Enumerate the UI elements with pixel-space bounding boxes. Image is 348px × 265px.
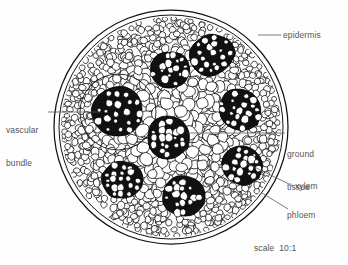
cell bbox=[101, 195, 107, 202]
cell bbox=[243, 60, 249, 66]
cell bbox=[109, 35, 114, 40]
cell bbox=[174, 106, 187, 118]
xylem-vessel bbox=[106, 183, 110, 187]
cell bbox=[225, 215, 231, 220]
xylem-vessel bbox=[110, 175, 117, 182]
cell bbox=[151, 225, 157, 232]
cell bbox=[91, 90, 97, 96]
cell bbox=[224, 204, 230, 211]
cell bbox=[191, 25, 196, 31]
label-ground-tissue: ground tissue bbox=[287, 127, 314, 215]
cell bbox=[64, 113, 69, 118]
cell bbox=[216, 27, 222, 32]
cell bbox=[153, 25, 160, 31]
xylem-vessel bbox=[118, 176, 123, 181]
cell bbox=[96, 60, 102, 66]
cell bbox=[149, 35, 156, 41]
cell bbox=[176, 163, 188, 172]
cell bbox=[156, 178, 166, 188]
cell bbox=[148, 170, 157, 179]
label-phloem: phloem bbox=[287, 210, 315, 221]
cell bbox=[65, 143, 71, 149]
cell bbox=[84, 168, 90, 174]
cell bbox=[129, 26, 134, 31]
cell bbox=[265, 110, 271, 116]
cell bbox=[74, 168, 81, 173]
label-xylem: xylem bbox=[295, 181, 318, 192]
xylem-vessel bbox=[151, 141, 157, 149]
xylem-vessel bbox=[188, 199, 193, 204]
cell bbox=[271, 106, 278, 112]
cell bbox=[131, 199, 137, 205]
xylem-vessel bbox=[151, 134, 157, 141]
cell bbox=[206, 197, 215, 204]
cell bbox=[153, 189, 161, 198]
xylem-vessel bbox=[161, 143, 165, 147]
label-vascular-bundle-line2: bundle bbox=[6, 158, 38, 169]
cell bbox=[113, 75, 121, 83]
cell bbox=[249, 53, 255, 58]
cell bbox=[86, 188, 93, 193]
cell bbox=[174, 233, 180, 239]
cell bbox=[183, 23, 190, 29]
xylem-vessel bbox=[136, 110, 143, 117]
xylem-vessel bbox=[114, 119, 118, 123]
cell bbox=[254, 182, 260, 189]
xylem-vessel bbox=[114, 101, 122, 109]
scale-note: scale 10:1 bbox=[254, 243, 296, 254]
xylem-vessel bbox=[135, 99, 140, 105]
cell bbox=[160, 98, 173, 110]
xylem-vessel bbox=[111, 162, 118, 169]
cell bbox=[212, 207, 219, 212]
figure-canvas: epidermis vascular bundle ground tissue … bbox=[0, 0, 348, 265]
cell bbox=[263, 101, 269, 107]
xylem-vessel bbox=[106, 91, 112, 96]
xylem-vessel bbox=[94, 118, 102, 125]
xylem-vessel bbox=[165, 185, 173, 192]
xylem-vessel bbox=[105, 173, 110, 177]
xylem-vessel bbox=[127, 192, 131, 197]
cell bbox=[140, 37, 148, 43]
cell bbox=[182, 219, 189, 225]
cell bbox=[107, 59, 115, 67]
xylem-vessel bbox=[196, 194, 203, 200]
cell bbox=[212, 144, 223, 155]
cell bbox=[72, 138, 78, 146]
cell bbox=[249, 72, 255, 78]
xylem-vessel bbox=[118, 190, 124, 197]
bundle-lower-left bbox=[101, 161, 143, 198]
cell bbox=[137, 210, 143, 216]
label-ground-tissue-line1: ground bbox=[287, 149, 314, 160]
cell bbox=[260, 124, 267, 131]
xylem-vessel bbox=[127, 120, 132, 125]
cell bbox=[171, 227, 178, 232]
cell bbox=[204, 227, 209, 232]
xylem-vessel bbox=[106, 100, 113, 107]
cell bbox=[242, 194, 248, 199]
label-vascular-bundle: vascular bundle bbox=[6, 103, 38, 191]
xylem-vessel bbox=[135, 185, 140, 190]
xylem-vessel bbox=[119, 127, 123, 132]
cell bbox=[268, 138, 275, 145]
cell bbox=[229, 183, 236, 189]
xylem-vessel bbox=[127, 127, 133, 133]
cell bbox=[143, 203, 151, 210]
xylem-vessel bbox=[179, 186, 184, 191]
xylem-vessel bbox=[106, 179, 110, 182]
cell bbox=[134, 66, 142, 75]
xylem-vessel bbox=[104, 110, 108, 113]
cell bbox=[173, 31, 180, 37]
cell bbox=[97, 49, 104, 56]
cell bbox=[117, 44, 123, 49]
cell bbox=[260, 182, 266, 188]
cell bbox=[127, 42, 132, 47]
xylem-vessel bbox=[176, 126, 184, 134]
xylem-vessel bbox=[174, 143, 179, 148]
cell bbox=[91, 173, 98, 179]
cell bbox=[244, 137, 252, 144]
cell bbox=[245, 199, 251, 205]
label-vascular-bundle-line1: vascular bbox=[6, 125, 38, 136]
xylem-vessel bbox=[180, 141, 185, 147]
cell bbox=[96, 159, 104, 167]
xylem-vessel bbox=[136, 119, 140, 123]
